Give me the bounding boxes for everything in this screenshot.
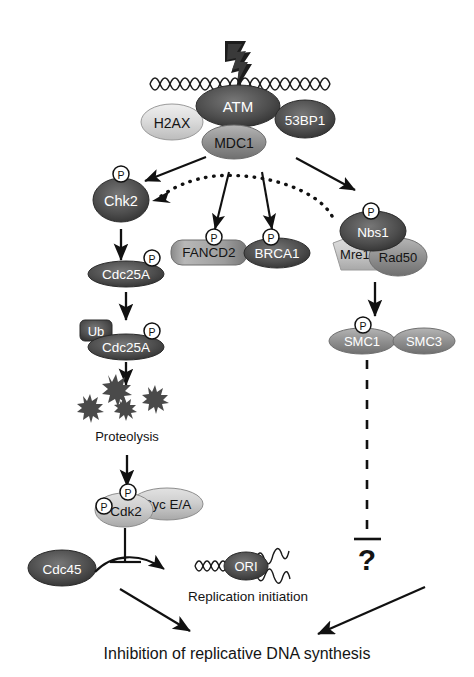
phospho-glyph: P: [124, 487, 131, 499]
node-cdc45-label: Cdc45: [42, 562, 81, 577]
node-mdc1-label: MDC1: [214, 135, 254, 151]
node-smc1[interactable]: SMC1 P: [329, 317, 395, 354]
phospho-badge-cdc25a-2: P: [144, 323, 160, 339]
node-nbs1-label: Nbs1: [357, 225, 389, 240]
node-53bp1-label: 53BP1: [285, 113, 326, 128]
node-nbs1[interactable]: Nbs1 P: [340, 203, 406, 251]
edge-left-to-conclusion: [120, 589, 190, 631]
phospho-badge-fancd2: P: [206, 229, 222, 245]
node-rad50-label: Rad50: [379, 250, 417, 265]
phospho-glyph: P: [267, 232, 274, 244]
node-brca1-label: BRCA1: [254, 246, 299, 261]
node-fancd2[interactable]: FANCD2 P: [171, 229, 247, 265]
phospho-glyph: P: [117, 169, 124, 181]
edge-mrn-to-chk2-dotted: [152, 175, 332, 216]
phospho-glyph: P: [367, 206, 374, 218]
phospho-badge-nbs1: P: [363, 203, 379, 219]
phospho-glyph: P: [148, 253, 155, 265]
node-smc3-label: SMC3: [406, 334, 442, 349]
unknown-mechanism-marker: ?: [358, 543, 376, 576]
phospho-badge-smc1: P: [355, 317, 371, 333]
node-smc1-label: SMC1: [344, 334, 380, 349]
node-fancd2-label: FANCD2: [182, 245, 235, 260]
edge-atm-to-fancd2: [215, 172, 229, 229]
phospho-glyph: P: [148, 326, 155, 338]
phospho-glyph: P: [359, 320, 366, 332]
node-cdk2[interactable]: Cdk2 P P: [95, 484, 153, 527]
node-chk2-label: Chk2: [104, 193, 138, 209]
node-53bp1[interactable]: 53BP1: [275, 100, 335, 138]
phospho-badge-chk2: P: [113, 166, 129, 182]
edge-cdc45-to-replication: [95, 557, 164, 572]
phospho-glyph: P: [210, 232, 217, 244]
phospho-badge-cdc25a-1: P: [144, 250, 160, 266]
node-h2ax[interactable]: H2AX: [141, 104, 203, 140]
node-cdc25a-ub-label: Cdc25A: [102, 340, 150, 355]
pathway-diagram: H2AX ATM MDC1 53BP1 Chk2 P Cdc25A: [0, 0, 474, 677]
node-mdc1[interactable]: MDC1: [202, 125, 266, 159]
edge-atm-to-chk2: [145, 157, 206, 181]
replication-initiation-label: Replication initiation: [188, 589, 308, 604]
phospho-badge-cdk2-top: P: [120, 484, 136, 500]
node-h2ax-label: H2AX: [154, 115, 191, 131]
node-atm-label: ATM: [223, 98, 254, 115]
proteolysis-label: Proteolysis: [95, 429, 159, 444]
edge-smc1-dashed-inhibition: [354, 360, 381, 539]
node-chk2[interactable]: Chk2 P: [93, 166, 149, 222]
node-atm[interactable]: ATM: [196, 85, 280, 127]
node-ori[interactable]: ORI: [224, 552, 268, 580]
conclusion-caption: Inhibition of replicative DNA synthesis: [104, 645, 371, 662]
proteolysis-starburst-icon: [77, 374, 169, 423]
node-cdk2-label: Cdk2: [110, 504, 142, 519]
node-ori-label: ORI: [234, 559, 257, 574]
phospho-badge-cdk2-left: P: [96, 498, 112, 514]
edge-right-to-conclusion: [318, 587, 425, 634]
node-brca1[interactable]: BRCA1 P: [244, 229, 310, 268]
node-cdc25a-phospho[interactable]: Cdc25A P: [88, 250, 164, 287]
node-cdc25a-label: Cdc25A: [102, 267, 150, 282]
edge-atm-to-nbs1: [296, 158, 355, 190]
node-smc3[interactable]: SMC3: [393, 328, 455, 354]
phospho-badge-brca1: P: [263, 229, 279, 245]
phospho-glyph: P: [100, 501, 107, 513]
node-cdc45[interactable]: Cdc45: [28, 550, 96, 586]
